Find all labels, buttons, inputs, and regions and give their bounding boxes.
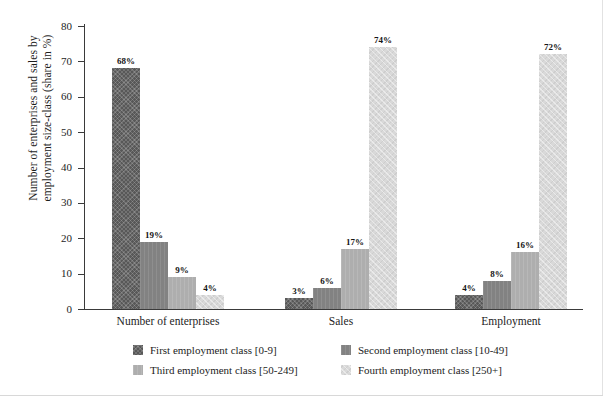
y-axis-tick-label-wrap: 0 [44,304,72,315]
bar[interactable]: 9% [168,277,196,309]
x-axis-category-label: Employment [421,314,601,328]
bar-value-label: 3% [292,286,306,296]
bar[interactable]: 8% [483,281,511,309]
bar-value-label: 17% [346,237,364,247]
legend-swatch [341,365,351,375]
chart-figure: Number of enterprises and sales by emplo… [0,0,603,396]
y-axis-tick-label: 40 [44,162,72,173]
chart-legend: First employment class [0-9]Second emplo… [133,340,553,380]
bar[interactable]: 4% [455,295,483,309]
y-axis-tick-label-wrap: 80 [44,21,72,32]
y-axis-tick-label: 0 [44,304,72,315]
plot-area: 68%19%9%4%3%6%17%74%4%8%16%72% [84,26,582,309]
bar-value-label: 19% [145,230,163,240]
bar[interactable]: 72% [539,54,567,309]
y-axis-tick-label: 70 [44,56,72,67]
bar[interactable]: 74% [369,47,397,309]
bar-value-label: 9% [175,265,189,275]
legend-item[interactable]: Second employment class [10-49] [341,344,553,357]
legend-item[interactable]: Fourth employment class [250+] [341,364,553,377]
legend-label: First employment class [0-9] [150,344,277,357]
bar-value-label: 4% [462,283,476,293]
legend-swatch [133,365,143,375]
bar[interactable]: 16% [511,252,539,309]
y-axis-title-line-1: Number of enterprises and sales by [26,0,40,258]
bar-value-label: 68% [117,56,135,66]
bar[interactable]: 6% [313,288,341,309]
legend-swatch [341,345,351,355]
y-axis-tick-label: 10 [44,268,72,279]
legend-item[interactable]: First employment class [0-9] [133,344,341,357]
bar[interactable]: 4% [196,295,224,309]
y-axis-tick-label-wrap: 40 [44,162,72,173]
x-axis-category-label: Sales [251,314,431,328]
legend-label: Third employment class [50-249] [150,364,298,377]
bar[interactable]: 19% [140,242,168,309]
y-axis-tick-label-wrap: 10 [44,268,72,279]
legend-swatch [133,345,143,355]
legend-label: Second employment class [10-49] [358,344,508,357]
y-axis-tick-label-wrap: 20 [44,233,72,244]
y-axis-tick-label: 30 [44,197,72,208]
y-axis-tick-label-wrap: 50 [44,127,72,138]
bar[interactable]: 17% [341,249,369,309]
legend-item[interactable]: Third employment class [50-249] [133,364,341,377]
y-axis-tick-label-wrap: 60 [44,91,72,102]
y-axis-tick-label-wrap: 30 [44,197,72,208]
y-axis-tick-label: 20 [44,233,72,244]
bar-value-label: 74% [374,35,392,45]
bar-value-label: 72% [544,42,562,52]
legend-label: Fourth employment class [250+] [358,364,502,377]
bar-value-label: 8% [490,269,504,279]
bar-value-label: 4% [203,283,217,293]
bar[interactable]: 68% [112,68,140,309]
y-axis-tick-label: 80 [44,21,72,32]
y-axis-tick-label-wrap: 70 [44,56,72,67]
x-axis-category-label: Number of enterprises [78,314,258,328]
bar[interactable]: 3% [285,298,313,309]
bar-value-label: 16% [516,240,534,250]
y-axis-tick-label: 50 [44,127,72,138]
y-axis-tick [78,309,84,310]
x-axis-line [84,309,583,310]
y-axis-tick-label: 60 [44,91,72,102]
bar-value-label: 6% [320,276,334,286]
